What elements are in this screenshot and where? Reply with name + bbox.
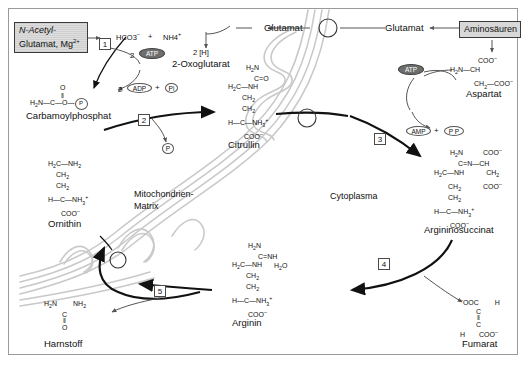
- n-acetyl-glutamat-line2: Glutamat, Mg2+: [19, 39, 80, 49]
- cofactor-plus-1: +: [155, 83, 160, 92]
- compound-name-fumarat: Fumarat: [462, 338, 497, 349]
- box-n-acetyl-glutamat: N-Acetyl- Glutamat, Mg2+: [14, 22, 88, 53]
- enzyme-step-2: 2: [138, 114, 150, 126]
- label-glutamat-matrix: Glutamat: [264, 22, 303, 33]
- compound-name-citrullin: Citrullin: [228, 139, 260, 150]
- cofactor-adp-1: ADP: [127, 83, 152, 93]
- structure-ornithin: H2C—NH2 CH2 CH2 H—C—NH3+ COO–: [48, 160, 88, 219]
- cofactor-ppi: P P: [444, 126, 464, 136]
- structure-carbamoylphosphat: O ‖ H2N—C—O—P: [30, 84, 88, 110]
- cofactor-atp-1: ATP: [139, 48, 165, 59]
- structure-argininosuccinat: H2NCOO– C=N—CH H2C—NHCH2 CH2COO– CH2 H—C…: [434, 146, 502, 231]
- label-bicarbonate: HCO3–: [116, 31, 140, 42]
- enzyme-step-1: 1: [99, 38, 111, 50]
- compound-name-ornithin: Ornithin: [48, 218, 81, 229]
- structure-fumarat: –OOCH C ‖ C HCOO–: [460, 296, 500, 340]
- structure-arginin: H2N C=NH H2C—NH CH2 CH2 H—C—NH3+ COO–: [232, 242, 277, 320]
- atp-count-1: 2: [130, 51, 134, 60]
- n-acetyl-glutamat-line1: N-Acetyl-: [19, 25, 56, 35]
- box-aminosaeuren: Aminosäuren: [459, 21, 521, 38]
- cofactor-atp-2: ATP: [398, 64, 424, 75]
- label-2-oxoglutarat: 2-Oxoglutarat: [172, 58, 230, 69]
- label-two-h: 2 [H]: [193, 48, 209, 57]
- figure-canvas: N-Acetyl- Glutamat, Mg2+ Aminosäuren 1 2…: [0, 0, 528, 365]
- cofactor-pi-1: Pi: [165, 83, 178, 93]
- compound-name-harnstoff: Harnstoff: [44, 338, 82, 349]
- enzyme-step-4: 4: [378, 258, 390, 270]
- adp-count-1: 2: [118, 85, 122, 94]
- compartment-label-matrix: Mitochondrien- Matrix: [134, 188, 194, 212]
- label-glutamat-cytoplasm: Glutamat: [385, 22, 424, 33]
- cofactor-amp: AMP: [406, 126, 431, 136]
- compound-name-argininosuccinat: Argininosuccinat: [424, 224, 494, 235]
- aminosaeuren-label: Aminosäuren: [464, 24, 517, 34]
- cofactor-plus-2: +: [434, 126, 439, 135]
- label-plus-sign: +: [148, 32, 152, 41]
- structure-aspartat: COO– H2N—CH CH2—COO–: [450, 54, 513, 91]
- cofactor-pi-2: P: [162, 143, 174, 154]
- structure-harnstoff: H2NNH2 C ‖ O: [44, 300, 86, 332]
- compound-name-carbamoylphosphat: Carbamoylphosphat: [26, 110, 111, 121]
- compartment-label-cytoplasma: Cytoplasma: [330, 190, 378, 202]
- enzyme-step-5: 5: [154, 285, 166, 297]
- structure-citrullin: H2N C=O H2C—NH CH2 CH2 H—C—NH3+ COO–: [228, 64, 269, 142]
- label-water-arginin: H2O: [274, 262, 287, 273]
- enzyme-step-3: 3: [374, 133, 386, 145]
- compound-name-aspartat: Aspartat: [466, 88, 501, 99]
- label-ammonium: NH4+: [163, 31, 181, 42]
- compound-name-arginin: Arginin: [232, 317, 262, 328]
